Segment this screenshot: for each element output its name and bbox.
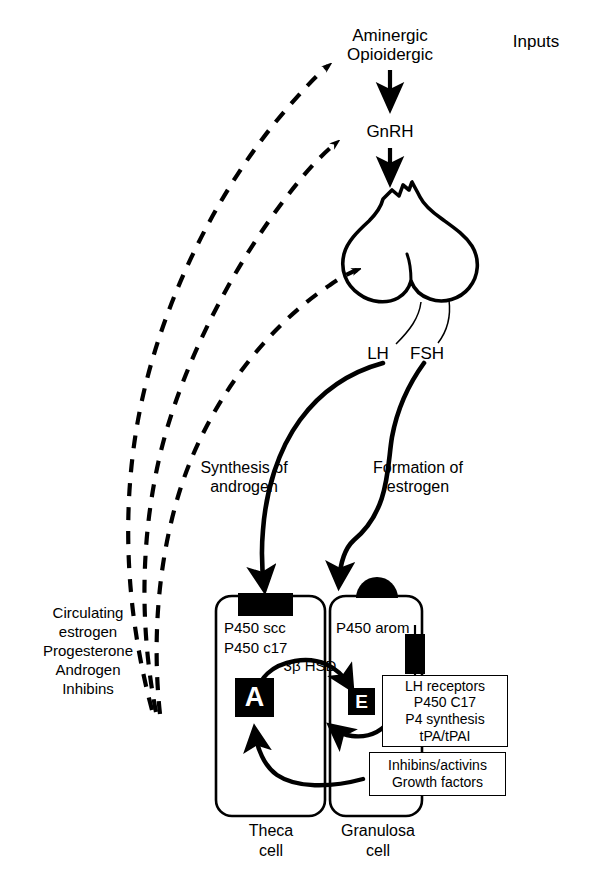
granulosa-products-box: Inhibins/activins Growth factors — [369, 752, 506, 796]
fsh-action-line-4: tPA/tPAI — [420, 728, 471, 745]
theca-enzymes-line1: P450 scc — [224, 620, 324, 637]
feedback-label-line5: Inhibins — [14, 681, 162, 698]
pituitary-gland-icon — [343, 182, 478, 302]
granulosa-product-line-1: Inhibins/activins — [388, 757, 487, 774]
gnrh-label: GnRH — [350, 122, 430, 141]
fsh-label: FSH — [404, 344, 450, 363]
granulosa-cell-label-line2: cell — [322, 842, 434, 860]
androgen-symbol-text: A — [245, 682, 265, 713]
theca-lh-receptor-icon — [238, 593, 293, 616]
lh-label: LH — [358, 344, 398, 363]
feedback-label-line3: Progesterone — [14, 643, 162, 660]
hypothalamus-label-line2: Opioidergic — [330, 45, 450, 64]
hypothalamus-label-line1: Aminergic — [330, 26, 450, 45]
theca-enzymes-line2: P450 c17 — [224, 640, 324, 657]
feedback-label-line1: Circulating — [14, 605, 162, 622]
formation-of-estrogen-label-line2: estrogen — [356, 478, 480, 496]
granulosa-cell-label-line1: Granulosa — [322, 822, 434, 840]
fsh-action-line-3: P4 synthesis — [405, 711, 484, 728]
estrogen-symbol-box: E — [348, 688, 375, 715]
formation-of-estrogen-label-line1: Formation of — [356, 459, 480, 477]
fsh-action-line-1: LH receptors — [405, 678, 485, 695]
synthesis-of-androgen-label-line1: Synthesis of — [182, 459, 306, 477]
estrogen-symbol-text: E — [355, 691, 368, 713]
feedback-label-line2: estrogen — [14, 624, 162, 641]
diagram-canvas: Inputs Aminergic Opioidergic GnRH LH FSH… — [0, 0, 596, 873]
fsh-actions-box: LH receptors P450 C17 P4 synthesis tPA/t… — [382, 675, 508, 747]
pituitary-to-fsh-stalk — [438, 300, 450, 343]
fsh-action-line-2: P450 C17 — [414, 694, 476, 711]
pituitary-to-lh-stalk — [396, 302, 421, 344]
inputs-label: Inputs — [496, 32, 576, 51]
granulosa-enzymes-line1: P450 arom — [336, 620, 432, 637]
theca-cell-label-line1: Theca — [216, 822, 326, 840]
hsd-label: 3β HSD — [270, 658, 350, 675]
granulosa-fsh-receptor-icon — [356, 577, 398, 598]
granulosa-product-line-2: Growth factors — [392, 774, 483, 791]
androgen-symbol-box: A — [235, 678, 274, 717]
feedback-label-line4: Androgen — [14, 662, 162, 679]
synthesis-of-androgen-label-line2: androgen — [182, 478, 306, 496]
theca-cell-label-line2: cell — [216, 842, 326, 860]
